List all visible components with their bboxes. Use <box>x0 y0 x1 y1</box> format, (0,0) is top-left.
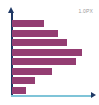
bar-row <box>12 20 99 27</box>
bar-row <box>12 77 99 84</box>
bar-row <box>12 58 99 65</box>
bar <box>12 68 52 75</box>
plot-area <box>0 0 99 105</box>
bar <box>12 87 26 94</box>
bar-row <box>12 30 99 37</box>
bar <box>12 49 82 56</box>
bar-row <box>12 87 99 94</box>
bar-series <box>12 20 99 96</box>
chart-legend: 1.0PX <box>78 9 93 14</box>
legend-label: 1.0PX <box>78 9 93 14</box>
bar-row <box>12 49 99 56</box>
bar <box>12 30 58 37</box>
bar <box>12 58 76 65</box>
bar <box>12 77 35 84</box>
bar <box>12 39 67 46</box>
chart-widget: 1.0PX <box>0 0 99 105</box>
bar-row <box>12 68 99 75</box>
bar <box>12 20 44 27</box>
bar-row <box>12 39 99 46</box>
